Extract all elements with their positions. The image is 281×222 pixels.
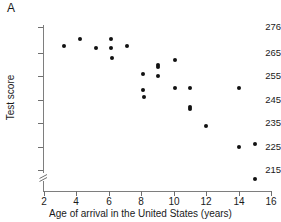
x-tick-label-14: 14 [227,197,251,207]
y-tick-245 [38,100,43,101]
scatter-plot-figure: A 215225235245255265276 246810121416 Tes… [0,0,281,222]
data-point [125,44,129,48]
x-axis-line [43,191,272,192]
y-tick-255 [38,76,43,77]
y-tick-276 [38,27,43,28]
data-point [204,124,208,128]
data-point [62,44,66,48]
data-point [141,72,145,76]
data-point [188,107,192,111]
y-tick-265 [38,53,43,54]
data-point [109,37,113,41]
data-point [94,46,98,50]
x-tick-label-12: 12 [194,197,218,207]
x-axis-title: Age of arrival in the United States (yea… [0,208,281,219]
panel-label: A [7,2,16,14]
x-tick-label-10: 10 [162,197,186,207]
data-point [253,142,257,146]
data-point [156,65,160,69]
y-tick-235 [38,123,43,124]
x-tick-label-16: 16 [259,197,281,207]
x-tick-label-8: 8 [129,197,153,207]
x-tick-label-4: 4 [64,197,88,207]
data-point [237,86,241,90]
y-tick-215 [38,170,43,171]
data-point [78,37,82,41]
axis-break-icon [38,172,50,184]
y-tick-225 [38,147,43,148]
data-point [188,86,192,90]
x-tick-label-6: 6 [97,197,121,207]
data-point [110,56,114,60]
y-axis-title: Test score [5,58,16,138]
data-point [253,177,257,181]
data-point [237,145,241,149]
x-tick-label-2: 2 [32,197,56,207]
